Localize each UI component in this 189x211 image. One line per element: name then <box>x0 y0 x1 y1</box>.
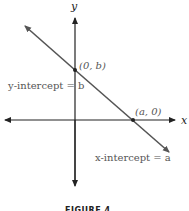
intercepts-diagram: y x (0, b) (a, 0) y-intercept = b x-inte… <box>0 0 189 211</box>
y-intercept-point <box>73 68 77 72</box>
x-intercept-point-label: (a, 0) <box>135 106 162 117</box>
x-intercept-text: x-intercept = a <box>95 152 171 163</box>
y-intercept-text: y-intercept = b <box>7 80 84 91</box>
x-axis-label: x <box>181 114 188 127</box>
x-intercept-point <box>131 118 135 122</box>
y-intercept-point-label: (0, b) <box>79 60 106 71</box>
figure-caption: FIGURE 4 <box>65 206 110 211</box>
y-axis-label: y <box>70 0 78 13</box>
line-graph <box>25 26 75 70</box>
